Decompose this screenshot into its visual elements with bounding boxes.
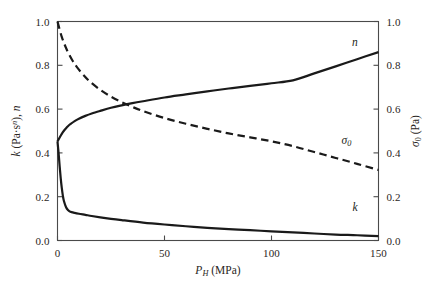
y-left-tick-label: 0.8 — [10, 59, 50, 71]
y-left-exponent-n: n — [10, 121, 19, 125]
x-axis-title: PH (MPa) — [195, 264, 240, 278]
y-left-unit-open: (Pa·s — [10, 125, 22, 152]
x-tick-label: 100 — [263, 247, 280, 259]
x-tick-label: 150 — [370, 247, 387, 259]
x-unit: (MPa) — [208, 264, 240, 276]
curve-label-k: k — [352, 201, 357, 213]
y-left-tick-label: 0.2 — [10, 191, 50, 203]
x-symbol-p: P — [195, 264, 202, 276]
x-tick-label: 50 — [159, 247, 170, 259]
x-tick-label: 0 — [55, 247, 61, 259]
y-right-tick-label: 0.0 — [387, 235, 401, 247]
y-right-symbol-sigma: σ — [408, 141, 420, 147]
y-left-unit-close: ), — [10, 111, 22, 121]
data-curves — [58, 22, 379, 237]
curve-series-2 — [58, 142, 379, 237]
curve-series-0 — [58, 52, 379, 141]
curve-series-1 — [58, 22, 379, 170]
y-right-tick-label: 1.0 — [387, 16, 401, 28]
y-left-tick-label: 1.0 — [10, 16, 50, 28]
y-axis-left-title: k (Pa·sn), n — [10, 105, 22, 156]
plot-canvas — [0, 0, 442, 288]
y-right-tick-label: 0.6 — [387, 103, 401, 115]
y-left-symbol-n: n — [10, 105, 22, 111]
curve-label-n: n — [352, 36, 358, 48]
y-left-tick-label: 0.0 — [10, 235, 50, 247]
y-right-subscript-zero: 0 — [414, 137, 423, 141]
curve-label-σ₀: σ0 — [341, 134, 351, 148]
y-right-tick-label: 0.2 — [387, 191, 401, 203]
y-left-symbol-k: k — [10, 151, 22, 156]
chart-figure: 0.00.20.40.60.81.00.00.20.40.60.81.00501… — [0, 0, 442, 288]
y-right-tick-label: 0.8 — [387, 59, 401, 71]
y-right-unit: (Pa) — [408, 115, 420, 137]
y-axis-right-title: σ0 (Pa) — [408, 115, 422, 147]
y-right-tick-label: 0.4 — [387, 147, 401, 159]
